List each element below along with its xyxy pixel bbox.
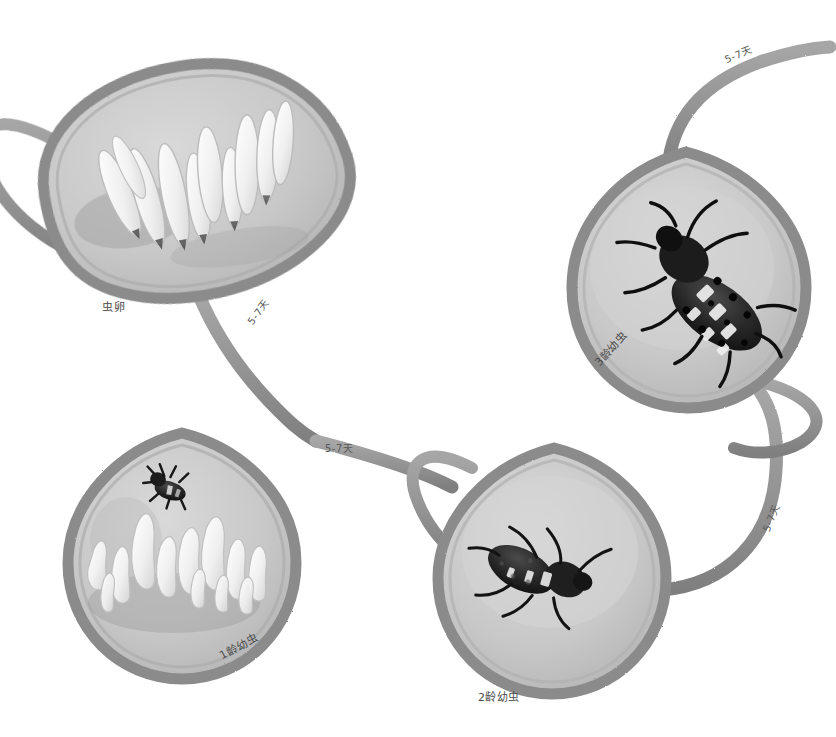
leaf-instar-3 [572, 152, 833, 453]
connector-instar2-to-instar3 [661, 392, 777, 590]
transition-label-instar1-to-instar2: 5-7天 [325, 440, 353, 455]
diagram-artwork [0, 0, 836, 737]
leaf-eggs [0, 42, 366, 326]
leaf-instar-1 [68, 433, 296, 679]
stage-label-eggs: 虫卵 [102, 298, 125, 314]
lifecycle-diagram: 虫卵 1龄幼虫 2龄幼虫 3龄幼虫 5-7天 5-7天 5-7天 5-7天 [0, 0, 836, 737]
stage-label-instar-2: 2龄幼虫 [478, 688, 520, 704]
